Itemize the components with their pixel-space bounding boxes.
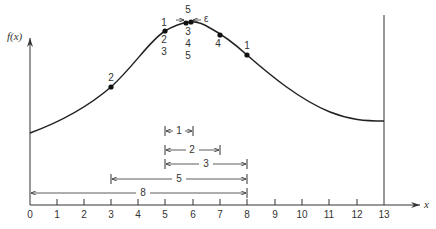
- svg-text:7: 7: [217, 209, 223, 220]
- point-x6-15: [188, 19, 193, 24]
- svg-text:1: 1: [244, 40, 250, 51]
- svg-text:3: 3: [161, 46, 167, 57]
- svg-text:8: 8: [140, 187, 146, 198]
- svg-text:4: 4: [215, 38, 221, 49]
- svg-text:5: 5: [185, 4, 191, 15]
- svg-text:13: 13: [378, 209, 390, 220]
- svg-text:4: 4: [185, 38, 191, 49]
- x-axis: x 0 1 2 3 4 5 6 7 8 9 10 11: [27, 198, 429, 220]
- svg-text:11: 11: [324, 209, 335, 220]
- y-axis: f(x): [7, 30, 30, 205]
- x-ticks: [57, 199, 357, 205]
- function-curve: [30, 22, 384, 133]
- point-x5-85: [183, 20, 188, 25]
- svg-text:6: 6: [190, 209, 196, 220]
- point-x7: [217, 32, 222, 37]
- point-x3: [108, 84, 113, 89]
- svg-text:2: 2: [108, 72, 114, 83]
- point-x8: [244, 52, 249, 57]
- svg-text:10: 10: [296, 209, 308, 220]
- y-axis-label: f(x): [7, 30, 23, 43]
- svg-text:4: 4: [135, 209, 141, 220]
- svg-text:8: 8: [244, 209, 250, 220]
- svg-text:3: 3: [203, 158, 209, 169]
- svg-text:1: 1: [176, 125, 182, 136]
- point-labels: 2 1 2 3 5 3 4 5 4 1: [108, 4, 250, 83]
- x-tick-labels: 0 1 2 3 4 5 6 7 8 9 10 11 12 13: [27, 209, 390, 220]
- svg-text:0: 0: [27, 209, 33, 220]
- svg-text:2: 2: [161, 34, 167, 45]
- epsilon-label: ε: [204, 13, 209, 24]
- svg-text:3: 3: [185, 26, 191, 37]
- svg-text:5: 5: [176, 173, 182, 184]
- point-x5: [162, 28, 167, 33]
- fibonacci-diagram: f(x) x 0 1 2 3 4 5 6 7 8: [0, 0, 436, 229]
- interval-8: 8: [31, 187, 247, 198]
- svg-text:9: 9: [272, 209, 278, 220]
- svg-text:3: 3: [108, 209, 114, 220]
- svg-text:2: 2: [81, 209, 87, 220]
- svg-text:5: 5: [185, 50, 191, 61]
- svg-text:5: 5: [162, 209, 168, 220]
- svg-text:2: 2: [189, 144, 195, 155]
- interval-2: 2: [165, 144, 220, 155]
- svg-text:12: 12: [351, 209, 363, 220]
- interval-1: 1: [165, 125, 193, 136]
- x-axis-label: x: [423, 198, 429, 210]
- interval-5: 5: [111, 173, 247, 184]
- svg-text:1: 1: [161, 17, 167, 28]
- svg-text:1: 1: [54, 209, 60, 220]
- evaluation-points: [108, 19, 249, 89]
- interval-3: 3: [165, 158, 247, 169]
